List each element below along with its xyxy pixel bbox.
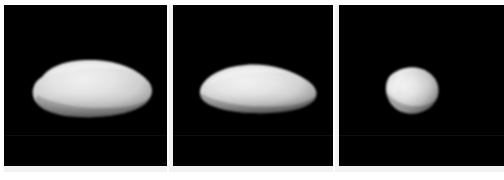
shape-model-body-2: [193, 61, 321, 117]
panel-separator-1: [167, 0, 169, 172]
shape-model-render-3: [381, 63, 443, 119]
shape-model-render-2: [193, 61, 321, 117]
shape-model-body-3: [381, 63, 443, 119]
panel-strip: [0, 0, 504, 172]
bottom-margin: [0, 172, 504, 180]
shape-model-view-2[interactable]: [173, 5, 334, 166]
shape-model-body-1: [25, 57, 155, 121]
shape-model-view-3[interactable]: [339, 5, 504, 166]
top-margin: [0, 0, 504, 5]
shape-model-render-1: [25, 57, 155, 121]
shape-model-view-1[interactable]: [4, 5, 167, 166]
panel-separator-2: [333, 0, 335, 172]
scanline: [173, 135, 334, 136]
scanline: [4, 135, 167, 136]
figure-root: [0, 0, 504, 180]
scanline: [339, 135, 504, 136]
left-margin: [0, 0, 4, 180]
